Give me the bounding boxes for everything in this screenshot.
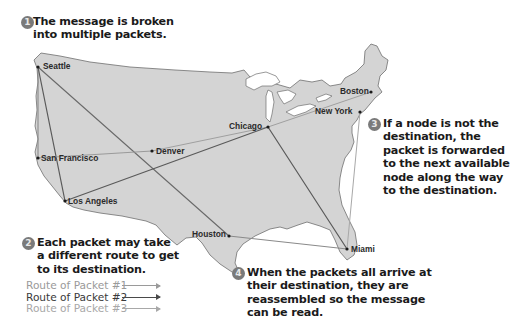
callout-3-line-6: to the destination.: [383, 184, 510, 197]
city-label-denver: Denver: [156, 146, 184, 156]
callout-4-line-4: can be read.: [247, 306, 432, 319]
callout-3-line-1: If a node is not the: [383, 117, 510, 130]
callout-2-line-2: a different route to get: [37, 249, 179, 262]
arrow-right-icon: [122, 285, 160, 286]
step-4-badge-icon: 4: [232, 267, 245, 280]
legend-label-packet-2: Route of Packet #2: [26, 291, 127, 303]
city-label-boston: Boston: [340, 86, 369, 96]
city-label-los-angeles: Los Angeles: [68, 196, 118, 206]
city-label-chicago: Chicago: [229, 121, 262, 131]
route-legend: Route of Packet #1 Route of Packet #2 Ro…: [26, 280, 127, 315]
callout-2-line-3: to its destination.: [37, 263, 179, 276]
city-label-new-york: New York: [315, 106, 352, 116]
callout-step-4: When the packets all arrive at their des…: [247, 266, 432, 320]
callout-3-line-4: to the next available: [383, 157, 510, 170]
legend-label-packet-3: Route of Packet #3: [26, 302, 127, 314]
callout-3-line-2: destination, the: [383, 130, 510, 143]
arrow-right-icon: [122, 308, 160, 309]
city-label-houston: Houston: [192, 229, 226, 239]
callout-3-line-3: packet is forwarded: [383, 144, 510, 157]
callout-step-2: Each packet may take a different route t…: [37, 236, 179, 276]
city-label-seattle: Seattle: [43, 61, 70, 71]
callout-4-line-1: When the packets all arrive at: [247, 266, 432, 279]
callout-1-line-2: into multiple packets.: [33, 28, 174, 41]
legend-label-packet-1: Route of Packet #1: [26, 279, 127, 291]
step-3-badge-icon: 3: [368, 118, 381, 131]
step-2-badge-icon: 2: [22, 237, 35, 250]
callout-step-1: The message is broken into multiple pack…: [33, 15, 174, 42]
arrow-right-icon: [122, 297, 160, 298]
callout-1-line-1: The message is broken: [33, 15, 174, 28]
route-houston-miami: [229, 236, 347, 249]
callout-4-line-2: their destination, they are: [247, 279, 432, 292]
city-label-miami: Miami: [351, 244, 375, 254]
callout-3-line-5: node along the way: [383, 171, 510, 184]
legend-item-packet-3: Route of Packet #3: [26, 303, 127, 315]
step-1-badge-icon: 1: [21, 16, 34, 29]
callout-4-line-3: reassembled so the message: [247, 293, 432, 306]
city-label-san-francisco: San Francisco: [41, 153, 98, 163]
callout-step-3: If a node is not the destination, the pa…: [383, 117, 510, 197]
callout-2-line-1: Each packet may take: [37, 236, 179, 249]
